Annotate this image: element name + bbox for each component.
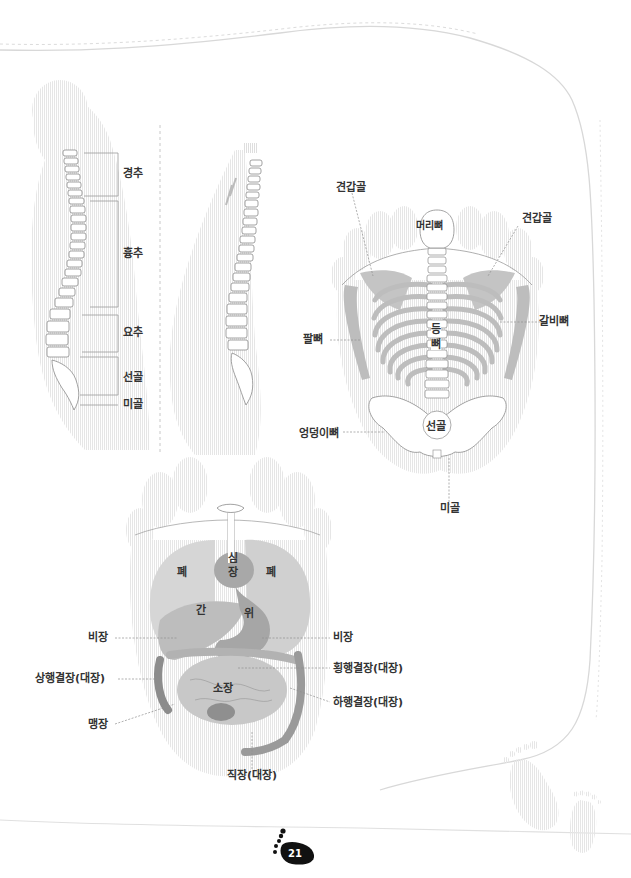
page-number-foot-icon bbox=[0, 0, 631, 878]
page-number: 21 bbox=[288, 848, 302, 859]
